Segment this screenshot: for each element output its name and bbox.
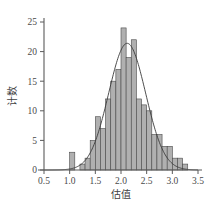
y-tick-label: 10 bbox=[28, 106, 38, 116]
histogram-bar bbox=[152, 134, 157, 170]
histogram-bar bbox=[106, 99, 111, 170]
y-tick-label: 15 bbox=[28, 77, 38, 87]
x-tick-label: 1.0 bbox=[64, 176, 76, 186]
x-tick-label: 3.5 bbox=[192, 176, 204, 186]
y-tick-label: 20 bbox=[28, 47, 38, 57]
histogram-bar bbox=[95, 117, 100, 170]
chart-canvas: 05101520250.51.01.52.02.53.03.5估值计数 bbox=[0, 0, 206, 213]
x-tick-label: 2.5 bbox=[141, 176, 153, 186]
x-tick-label: 0.5 bbox=[38, 176, 50, 186]
x-tick-label: 2.0 bbox=[115, 176, 127, 186]
histogram-bar bbox=[100, 129, 105, 170]
x-tick-label: 1.5 bbox=[89, 176, 101, 186]
histogram-bar bbox=[142, 105, 147, 170]
histogram-bar bbox=[126, 58, 131, 170]
histogram-bar bbox=[131, 40, 136, 170]
x-axis-title: 估值 bbox=[111, 188, 131, 200]
histogram-bar bbox=[136, 99, 141, 170]
histogram-bar bbox=[157, 134, 162, 170]
histogram-bar bbox=[167, 146, 172, 170]
y-tick-label: 0 bbox=[32, 165, 37, 175]
x-tick-label: 3.0 bbox=[166, 176, 178, 186]
histogram-bar bbox=[116, 69, 121, 170]
y-tick-label: 25 bbox=[28, 17, 38, 27]
histogram-figure: 05101520250.51.01.52.02.53.03.5估值计数 bbox=[0, 0, 206, 213]
y-tick-label: 5 bbox=[32, 136, 37, 146]
y-axis-title: 计数 bbox=[6, 86, 18, 106]
histogram-bar bbox=[147, 111, 152, 170]
histogram-bar bbox=[111, 81, 116, 170]
histogram-bar bbox=[90, 140, 95, 170]
histogram-bar bbox=[70, 152, 75, 170]
